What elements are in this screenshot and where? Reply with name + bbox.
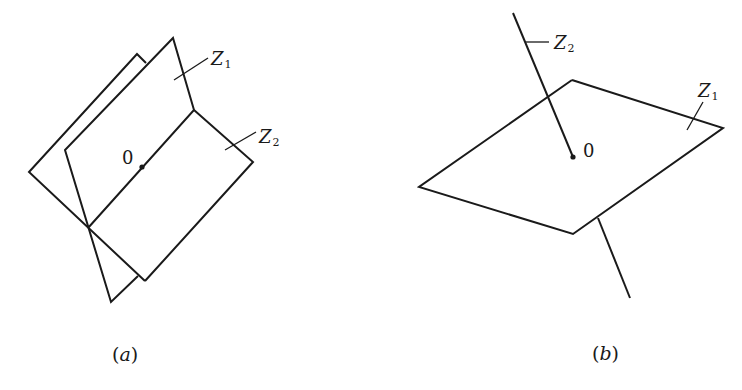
origin-label: 0 [122, 147, 133, 168]
caption-letter: a [119, 343, 130, 365]
z1-label: Z1 [210, 48, 232, 71]
panel-caption-a: (a) [112, 343, 138, 365]
panel-b: Z2Z10(b) [419, 13, 723, 364]
z2-label: Z2 [553, 32, 575, 55]
z2-label-subscript: 2 [568, 42, 575, 55]
z2-label-letter: Z [258, 126, 272, 147]
z1-label-letter: Z [210, 48, 224, 69]
z1-label: Z1 [697, 80, 719, 103]
origin-point [139, 164, 144, 169]
line-z2-lower [598, 218, 630, 298]
caption-close-paren: ) [612, 342, 619, 364]
z2-label-letter: Z [553, 32, 567, 53]
z1-label-leader-line [687, 102, 703, 130]
caption-close-paren: ) [131, 343, 138, 365]
origin-point [570, 154, 575, 159]
back-plane-z1-bottom [65, 38, 194, 302]
plane-z2-outline [145, 110, 253, 281]
panel-caption-b: (b) [592, 342, 619, 364]
caption-open-paren: ( [112, 343, 119, 365]
caption-open-paren: ( [592, 342, 599, 364]
z1-label-letter: Z [697, 80, 711, 101]
z1-label-subscript: 1 [712, 90, 719, 103]
origin-label: 0 [583, 140, 594, 161]
panel-a: Z1Z20(a) [29, 38, 280, 365]
z1-label-subscript: 1 [225, 58, 232, 71]
z2-label-subscript: 2 [273, 136, 280, 149]
z2-label: Z2 [258, 126, 280, 149]
caption-letter: b [599, 342, 611, 364]
planes-diagram: Z1Z20(a) Z2Z10(b) [0, 0, 742, 390]
